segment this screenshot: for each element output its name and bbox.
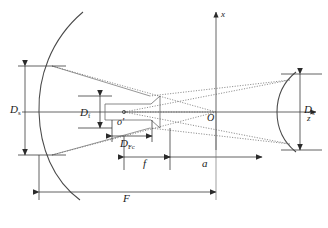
- main-reflector: [39, 12, 83, 200]
- coordinate-axes: [22, 12, 316, 150]
- label-phase-center: DFc: [120, 138, 135, 149]
- ray-upper-main: [52, 66, 216, 112]
- ray-sub-return-lower: [150, 128, 290, 144]
- label-z-axis: z: [307, 114, 311, 123]
- label-axial-offset: a: [202, 158, 208, 169]
- label-focal-length: f: [143, 158, 146, 169]
- edge-upper: [52, 66, 150, 96]
- diagram-canvas: [0, 0, 328, 228]
- label-feed-point: o': [117, 117, 124, 127]
- ray-sub-return-upper: [150, 80, 290, 96]
- solid-ray-edges: [52, 66, 150, 155]
- label-system-focal-length: F: [123, 193, 130, 204]
- edge-lower: [52, 128, 150, 155]
- label-x-axis: x: [221, 10, 225, 19]
- label-origin: O: [207, 113, 214, 123]
- label-feed-aperture: Df: [80, 107, 90, 118]
- label-main-aperture: Ds: [10, 104, 21, 115]
- main-reflector-arc: [39, 12, 83, 200]
- antenna-optics-diagram: Ds Ds Df DFc f a F x z O o': [0, 0, 328, 228]
